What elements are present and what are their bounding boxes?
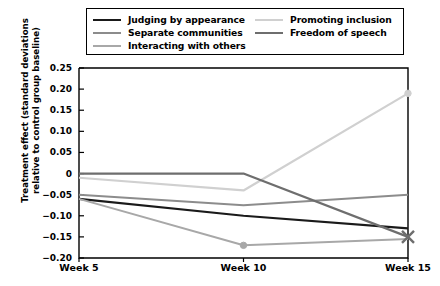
legend-entry[interactable]: Interacting with others bbox=[93, 39, 246, 52]
legend-column-right: Promoting inclusionFreedom of speech bbox=[255, 13, 392, 39]
legend-entry[interactable]: Freedom of speech bbox=[255, 26, 392, 39]
axis-frame bbox=[79, 68, 408, 258]
series-marker-dot bbox=[405, 90, 411, 96]
legend-label: Interacting with others bbox=[128, 39, 246, 52]
series-line bbox=[79, 93, 408, 190]
legend-label: Freedom of speech bbox=[290, 26, 387, 39]
legend-label: Promoting inclusion bbox=[290, 13, 392, 26]
legend-entry[interactable]: Promoting inclusion bbox=[255, 13, 392, 26]
legend-label: Judging by appearance bbox=[128, 13, 245, 26]
series-marker-dot bbox=[240, 242, 246, 248]
x-tick-label: Week 10 bbox=[221, 262, 267, 273]
legend-swatch bbox=[93, 45, 121, 47]
chart-figure: Treatment effect (standard deviations re… bbox=[0, 0, 440, 286]
legend-label: Separate communities bbox=[128, 26, 243, 39]
x-tick-label: Week 15 bbox=[385, 262, 431, 273]
legend-swatch bbox=[255, 19, 283, 21]
legend-column-left: Judging by appearanceSeparate communitie… bbox=[93, 13, 246, 52]
legend-entry[interactable]: Separate communities bbox=[93, 26, 246, 39]
legend-swatch bbox=[93, 32, 121, 34]
legend-swatch bbox=[93, 19, 121, 21]
chart-legend: Judging by appearanceSeparate communitie… bbox=[86, 8, 404, 55]
legend-entry[interactable]: Judging by appearance bbox=[93, 13, 246, 26]
x-tick-label: Week 5 bbox=[59, 262, 98, 273]
legend-swatch bbox=[255, 32, 283, 34]
